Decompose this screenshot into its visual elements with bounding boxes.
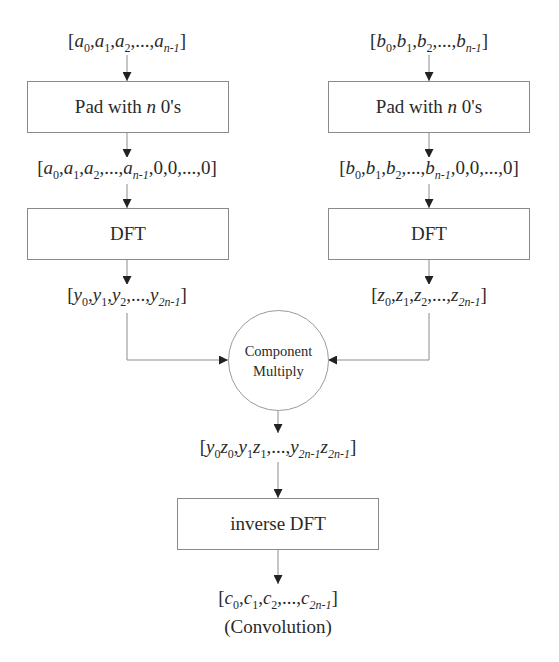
dft-output-z: [z0,z1,z2,...,z2n-1]: [369, 284, 489, 306]
product-sequence: [y0z0,y1z1,...,y2n-1z2n-1]: [198, 436, 359, 458]
component-multiply-node: Component Multiply: [228, 310, 329, 411]
dft-box-right: DFT: [328, 208, 530, 260]
inverse-dft-box: inverse DFT: [177, 498, 379, 550]
multiply-label-line2: Multiply: [253, 361, 304, 381]
padded-sequence-b: [b0,b1,b2,...,bn-1,0,0,...,0]: [337, 157, 521, 179]
arrow-y-to-multiply: [127, 313, 228, 360]
pad-box-left: Pad with n 0's: [27, 81, 229, 133]
dft-output-y: [y0,y1,y2,...,y2n-1]: [65, 284, 189, 306]
arrow-z-to-multiply: [328, 313, 429, 360]
padded-sequence-a: [a0,a1,a2,...,an-1,0,0,...,0]: [35, 157, 219, 179]
pad-box-right: Pad with n 0's: [328, 81, 530, 133]
result-sequence-c: [c0,c1,c2,...,c2n-1]: [216, 587, 340, 609]
input-sequence-a: [a0,a1,a2,...,an-1]: [66, 30, 188, 52]
dft-box-left: DFT: [27, 208, 229, 260]
input-sequence-b: [b0,b1,b2,...,bn-1]: [368, 30, 490, 52]
convolution-caption: (Convolution): [224, 616, 332, 638]
multiply-label-line1: Component: [245, 341, 313, 361]
